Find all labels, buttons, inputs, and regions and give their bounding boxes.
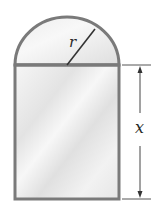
radius-label: r [69, 33, 77, 51]
arrowhead-up-icon [138, 66, 143, 73]
arrowhead-down-icon [138, 191, 143, 198]
rectangle-pane [15, 65, 119, 199]
semicircle-pane [15, 17, 119, 65]
height-label: x [135, 118, 144, 137]
norman-window-diagram: r x [0, 0, 159, 213]
